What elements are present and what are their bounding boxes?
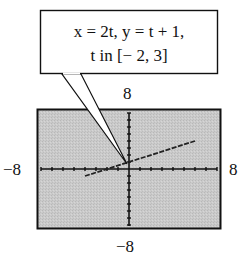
ymin-label: −8	[116, 238, 134, 255]
xmax-label: 8	[229, 161, 238, 178]
xmin-label: −8	[3, 161, 21, 178]
callout-equation: x = 2t, y = t + 1,	[40, 23, 218, 40]
callout-t-range: t in [− 2, 3]	[40, 47, 218, 64]
ymax-label: 8	[123, 85, 132, 102]
